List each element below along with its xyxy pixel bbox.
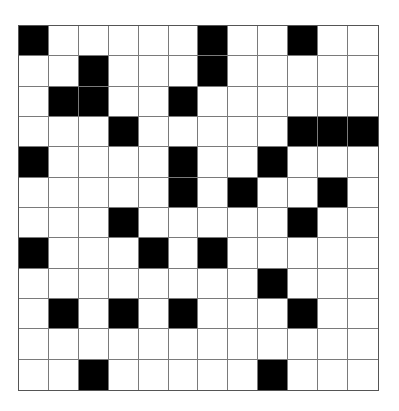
grid-cell[interactable] <box>258 26 288 56</box>
grid-cell[interactable] <box>198 269 228 299</box>
grid-cell[interactable] <box>318 299 348 329</box>
grid-cell[interactable] <box>109 238 139 268</box>
grid-cell[interactable] <box>139 56 169 86</box>
grid-cell[interactable] <box>19 208 49 238</box>
grid-cell[interactable] <box>139 147 169 177</box>
grid-cell[interactable] <box>139 117 169 147</box>
grid-cell[interactable] <box>79 329 109 359</box>
grid-cell[interactable] <box>258 87 288 117</box>
grid-cell[interactable] <box>19 299 49 329</box>
grid-cell[interactable] <box>49 329 79 359</box>
grid-cell[interactable] <box>79 238 109 268</box>
grid-cell[interactable] <box>19 178 49 208</box>
grid-cell[interactable] <box>288 87 318 117</box>
grid-cell[interactable] <box>258 178 288 208</box>
grid-cell[interactable] <box>318 360 348 390</box>
grid-cell[interactable] <box>258 329 288 359</box>
grid-cell[interactable] <box>109 56 139 86</box>
grid-cell[interactable] <box>139 178 169 208</box>
grid-cell[interactable] <box>198 208 228 238</box>
grid-cell[interactable] <box>348 87 378 117</box>
grid-cell[interactable] <box>49 269 79 299</box>
grid-cell[interactable] <box>109 178 139 208</box>
grid-cell[interactable] <box>348 329 378 359</box>
grid-cell[interactable] <box>169 329 199 359</box>
grid-cell[interactable] <box>318 329 348 359</box>
grid-cell[interactable] <box>288 147 318 177</box>
grid-cell[interactable] <box>228 26 258 56</box>
grid-cell[interactable] <box>228 87 258 117</box>
grid-cell[interactable] <box>79 208 109 238</box>
grid-cell[interactable] <box>288 269 318 299</box>
grid-cell[interactable] <box>139 87 169 117</box>
grid-cell[interactable] <box>79 299 109 329</box>
grid-cell[interactable] <box>228 269 258 299</box>
grid-cell[interactable] <box>348 299 378 329</box>
grid-cell[interactable] <box>198 360 228 390</box>
grid-cell[interactable] <box>258 299 288 329</box>
grid-cell[interactable] <box>79 147 109 177</box>
grid-cell[interactable] <box>318 269 348 299</box>
grid-cell[interactable] <box>109 147 139 177</box>
grid-cell[interactable] <box>228 117 258 147</box>
grid-cell[interactable] <box>19 117 49 147</box>
grid-cell[interactable] <box>19 360 49 390</box>
grid-cell[interactable] <box>348 178 378 208</box>
grid-cell[interactable] <box>348 147 378 177</box>
grid-cell[interactable] <box>228 329 258 359</box>
grid-cell[interactable] <box>139 269 169 299</box>
grid-cell[interactable] <box>79 26 109 56</box>
grid-cell[interactable] <box>139 329 169 359</box>
grid-cell[interactable] <box>288 329 318 359</box>
grid-cell[interactable] <box>228 360 258 390</box>
grid-cell[interactable] <box>198 117 228 147</box>
grid-cell[interactable] <box>258 238 288 268</box>
grid-cell[interactable] <box>169 269 199 299</box>
grid-cell[interactable] <box>318 208 348 238</box>
grid-cell[interactable] <box>139 208 169 238</box>
grid-cell[interactable] <box>228 208 258 238</box>
grid-cell[interactable] <box>19 87 49 117</box>
grid-cell[interactable] <box>348 26 378 56</box>
grid-cell[interactable] <box>49 208 79 238</box>
grid-cell[interactable] <box>228 56 258 86</box>
grid-cell[interactable] <box>109 26 139 56</box>
grid-cell[interactable] <box>19 269 49 299</box>
grid-cell[interactable] <box>348 238 378 268</box>
grid-cell[interactable] <box>49 238 79 268</box>
grid-cell[interactable] <box>228 238 258 268</box>
grid-cell[interactable] <box>79 269 109 299</box>
grid-cell[interactable] <box>228 147 258 177</box>
grid-cell[interactable] <box>139 360 169 390</box>
grid-cell[interactable] <box>49 56 79 86</box>
grid-cell[interactable] <box>198 87 228 117</box>
grid-cell[interactable] <box>109 87 139 117</box>
grid-cell[interactable] <box>258 56 288 86</box>
grid-cell[interactable] <box>109 329 139 359</box>
grid-cell[interactable] <box>169 26 199 56</box>
grid-cell[interactable] <box>228 299 258 329</box>
grid-cell[interactable] <box>109 269 139 299</box>
grid-cell[interactable] <box>348 269 378 299</box>
grid-cell[interactable] <box>318 87 348 117</box>
grid-cell[interactable] <box>318 56 348 86</box>
grid-cell[interactable] <box>19 329 49 359</box>
grid-cell[interactable] <box>288 238 318 268</box>
grid-cell[interactable] <box>318 147 348 177</box>
grid-cell[interactable] <box>139 299 169 329</box>
grid-cell[interactable] <box>169 117 199 147</box>
grid-cell[interactable] <box>79 117 109 147</box>
grid-cell[interactable] <box>49 178 79 208</box>
grid-cell[interactable] <box>49 360 79 390</box>
grid-cell[interactable] <box>198 329 228 359</box>
grid-cell[interactable] <box>318 26 348 56</box>
grid-cell[interactable] <box>49 147 79 177</box>
grid-cell[interactable] <box>169 238 199 268</box>
grid-cell[interactable] <box>348 208 378 238</box>
grid-cell[interactable] <box>198 147 228 177</box>
grid-cell[interactable] <box>198 299 228 329</box>
grid-cell[interactable] <box>288 56 318 86</box>
grid-cell[interactable] <box>109 360 139 390</box>
grid-cell[interactable] <box>139 26 169 56</box>
grid-cell[interactable] <box>288 178 318 208</box>
